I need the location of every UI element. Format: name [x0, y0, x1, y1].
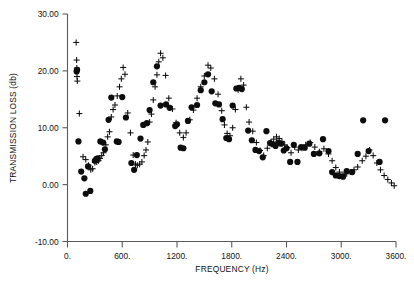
- data-point-dot: [245, 127, 251, 133]
- data-point-dot: [260, 154, 266, 160]
- scatter-plot: -10.000.0010.0020.0030.00 0.600.1200.180…: [0, 0, 414, 288]
- data-point-dot: [180, 145, 186, 151]
- x-tick-label: 2400.: [276, 251, 297, 261]
- x-tick-label: 0.: [64, 251, 71, 261]
- data-point-dot: [116, 139, 122, 145]
- data-point-dot: [201, 79, 207, 85]
- data-point-dot: [74, 67, 80, 73]
- data-point-dot: [154, 63, 160, 69]
- data-point-dot: [123, 114, 129, 120]
- data-point-dot: [320, 136, 326, 142]
- y-tick-label: 0.00: [42, 180, 59, 190]
- data-point-dot: [340, 174, 346, 180]
- data-point-dot: [185, 118, 191, 124]
- data-point-dot: [239, 86, 245, 92]
- data-point-dot: [95, 155, 101, 161]
- data-point-dot: [205, 71, 211, 77]
- data-point-dot: [349, 169, 355, 175]
- data-point-dot: [344, 168, 350, 174]
- data-point-dot: [85, 163, 91, 169]
- data-point-dot: [263, 128, 269, 134]
- data-point-dot: [134, 152, 140, 158]
- data-point-dot: [78, 168, 84, 174]
- figure-background: [0, 0, 414, 288]
- data-point-dot: [355, 151, 361, 157]
- data-point-dot: [360, 117, 366, 123]
- data-point-dot: [105, 117, 111, 123]
- data-point-dot: [174, 121, 180, 127]
- data-point-dot: [382, 117, 388, 123]
- y-tick-label: -10.00: [35, 237, 59, 247]
- data-point-dot: [128, 160, 134, 166]
- data-point-dot: [167, 105, 173, 111]
- data-point-dot: [87, 188, 93, 194]
- data-point-dot: [131, 167, 137, 173]
- data-point-dot: [249, 137, 255, 143]
- data-point-dot: [108, 95, 114, 101]
- data-point-dot: [230, 102, 236, 108]
- data-point-dot: [209, 88, 215, 94]
- data-point-dot: [144, 120, 150, 126]
- y-tick-label: 10.00: [38, 123, 59, 133]
- x-tick-label: 600.: [114, 251, 130, 261]
- data-point-dot: [198, 87, 204, 93]
- x-tick-label: 1800.: [221, 251, 242, 261]
- data-point-dot: [325, 148, 331, 154]
- data-point-dot: [216, 101, 222, 107]
- data-point-dot: [75, 138, 81, 144]
- data-point-dot: [376, 159, 382, 165]
- data-point-dot: [278, 141, 284, 147]
- data-point-dot: [256, 148, 262, 154]
- data-point-dot: [137, 135, 143, 141]
- data-point-dot: [119, 94, 125, 100]
- data-point-dot: [226, 136, 232, 142]
- data-point-dot: [147, 107, 153, 113]
- y-tick-label: 30.00: [38, 9, 59, 19]
- data-point-dot: [291, 142, 297, 148]
- data-point-dot: [81, 175, 87, 181]
- x-tick-label: 1200.: [167, 251, 188, 261]
- data-point-dot: [194, 102, 200, 108]
- x-tick-label: 3000.: [331, 251, 352, 261]
- data-point-dot: [189, 104, 195, 110]
- x-axis-title: FREQUENCY (Hz): [195, 264, 268, 274]
- y-axis-title: TRANSMISSION LOSS (db): [8, 73, 18, 183]
- x-tick-label: 3600.: [386, 251, 407, 261]
- data-point-dot: [150, 79, 156, 85]
- data-point-dot: [366, 148, 372, 154]
- data-point-dot: [306, 141, 312, 147]
- data-point-dot: [100, 139, 106, 145]
- data-point-dot: [283, 145, 289, 151]
- data-point-dot: [287, 159, 293, 165]
- data-point-dot: [316, 150, 322, 156]
- y-tick-label: 20.00: [38, 66, 59, 76]
- chart-figure: -10.000.0010.0020.0030.00 0.600.1200.180…: [0, 0, 414, 288]
- data-point-dot: [311, 151, 317, 157]
- data-point-dot: [220, 116, 226, 122]
- data-point-dot: [294, 159, 300, 165]
- data-point-dot: [102, 146, 108, 152]
- data-point-dot: [157, 102, 163, 108]
